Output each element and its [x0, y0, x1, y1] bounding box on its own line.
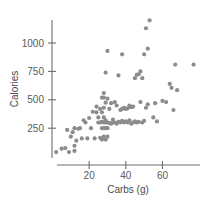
data-point: [173, 62, 177, 66]
data-point: [116, 73, 120, 77]
data-point: [153, 101, 157, 105]
data-point: [83, 120, 87, 124]
x-axis-tick-label: 60: [157, 170, 169, 181]
data-point: [138, 100, 142, 104]
data-point: [65, 128, 69, 132]
data-point: [191, 62, 195, 66]
data-point: [148, 18, 152, 22]
data-point: [151, 115, 155, 119]
x-axis-tick-label: 20: [84, 170, 96, 181]
data-point: [94, 105, 98, 109]
data-point: [164, 100, 168, 104]
data-point: [105, 49, 109, 53]
x-axis-ticks: 204060: [84, 161, 169, 181]
data-point: [137, 120, 141, 124]
data-point: [91, 110, 95, 114]
data-point: [175, 88, 179, 92]
data-point: [74, 139, 78, 143]
data-point: [138, 69, 142, 73]
y-axis-ticks: 2505007501000: [22, 38, 56, 134]
data-point: [69, 135, 73, 139]
scatter-plot-figure: 2505007501000 204060 Carbs (g) Calories: [0, 0, 205, 202]
data-points-group: [54, 18, 196, 154]
data-point: [105, 126, 109, 130]
data-point: [104, 101, 108, 105]
data-point: [105, 135, 109, 139]
scatter-plot-canvas: 2505007501000 204060 Carbs (g) Calories: [0, 0, 205, 202]
data-point: [105, 97, 109, 101]
data-point: [140, 76, 144, 80]
x-axis-title: Carbs (g): [107, 184, 149, 195]
x-axis-group: 204060: [57, 161, 200, 181]
data-point: [102, 91, 106, 95]
data-point: [142, 52, 146, 56]
data-point: [60, 147, 64, 151]
y-axis-tick-label: 1000: [22, 38, 45, 49]
data-point: [89, 126, 93, 130]
data-point: [171, 108, 175, 112]
data-point: [168, 82, 172, 86]
y-axis-group: 2505007501000: [22, 20, 56, 158]
data-point: [96, 115, 100, 119]
data-point: [160, 99, 164, 103]
data-point: [63, 146, 67, 150]
data-point: [144, 26, 148, 30]
y-axis-tick-label: 250: [27, 123, 44, 134]
data-point: [155, 119, 159, 123]
data-point: [72, 144, 76, 148]
x-axis-tick-label: 40: [120, 170, 132, 181]
data-point: [85, 136, 89, 140]
data-point: [100, 110, 104, 114]
data-point: [120, 52, 124, 56]
data-point: [67, 150, 71, 154]
data-point: [102, 95, 106, 99]
y-axis-title: Calories: [9, 71, 20, 108]
data-point: [109, 101, 113, 105]
data-point: [107, 107, 111, 111]
data-point: [142, 119, 146, 123]
data-point: [146, 102, 150, 106]
data-point: [104, 70, 108, 74]
data-point: [72, 126, 76, 130]
data-point: [115, 103, 119, 107]
data-point: [71, 130, 75, 134]
data-point: [80, 136, 84, 140]
data-point: [93, 136, 97, 140]
data-point: [54, 150, 58, 154]
data-point: [146, 47, 150, 51]
data-point: [102, 106, 106, 110]
data-point: [169, 86, 173, 90]
data-point: [72, 149, 76, 153]
data-point: [131, 105, 135, 109]
data-point: [94, 110, 98, 114]
y-axis-tick-label: 750: [27, 66, 44, 77]
data-point: [78, 126, 82, 130]
data-point: [87, 116, 91, 120]
y-axis-tick-label: 500: [27, 94, 44, 105]
